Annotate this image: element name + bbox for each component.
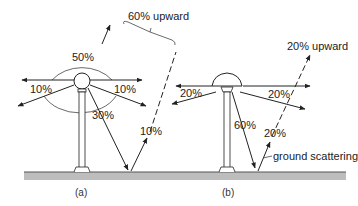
label-50: 50%	[72, 51, 94, 63]
arrow-reflected	[131, 138, 147, 171]
lamp-collar	[221, 87, 233, 92]
caption-b: (b)	[222, 187, 234, 198]
label-20-upward: 20% upward	[287, 40, 348, 52]
label-reflected-20: 20%	[264, 127, 286, 139]
label-left-20: 20%	[180, 87, 202, 99]
panel-a: 50% 10% 10% 30% 10% 60% upward (a)	[18, 10, 189, 198]
label-right-10: 10%	[114, 83, 136, 95]
brace	[124, 21, 176, 45]
ground	[24, 172, 346, 180]
label-left-10: 10%	[30, 83, 52, 95]
label-reflected-10: 10%	[140, 125, 162, 137]
label-ground-scattering: ground scattering	[273, 150, 358, 162]
arrow-up	[102, 25, 110, 44]
arrow-down-to-ground	[88, 88, 128, 170]
label-60: 60%	[234, 119, 256, 131]
pole-b	[224, 92, 230, 168]
label-60-upward: 60% upward	[128, 10, 189, 22]
globe-lamp	[74, 73, 90, 89]
pole-base-a	[74, 167, 90, 172]
dashed-upward	[150, 52, 176, 132]
lamp-collar	[78, 89, 86, 92]
caption-a: (a)	[75, 187, 87, 198]
label-30: 30%	[92, 109, 114, 121]
dome-lamp	[212, 73, 242, 86]
light-distribution-diagram: 50% 10% 10% 30% 10% 60% upward (a) 20% 2…	[0, 0, 358, 206]
label-right-20: 20%	[268, 88, 290, 100]
pole-base-b	[219, 167, 235, 172]
pole-a	[79, 92, 85, 168]
